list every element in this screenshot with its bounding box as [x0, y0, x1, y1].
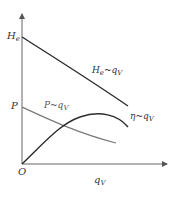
- power-curve-label: P~qV: [44, 101, 68, 112]
- power-curve: [22, 107, 116, 143]
- x-axis-label: qV: [94, 175, 105, 187]
- origin-label: O: [18, 167, 26, 177]
- y-label-head: He: [7, 31, 20, 43]
- head-curve-label: He~qV: [92, 66, 122, 77]
- efficiency-curve: [22, 114, 128, 164]
- efficiency-curve-label: η~qV: [130, 112, 154, 123]
- y-label-power: P: [11, 101, 18, 111]
- pump-characteristic-diagram: He P O qV He~qV P~qV η~qV: [0, 0, 175, 197]
- diagram-canvas: [0, 0, 175, 197]
